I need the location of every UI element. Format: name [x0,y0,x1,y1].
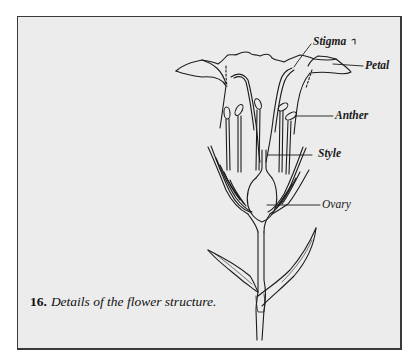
figure-caption: 16.Details of the flower structure. [30,294,217,310]
figure-caption-text: Details of the flower structure. [51,294,217,309]
label-style: Style [318,147,341,159]
ovary-shape [247,178,277,222]
left-leaf [208,250,258,292]
right-leaf [258,228,316,296]
figure-number: 16. [30,294,47,309]
corolla-outline [176,52,351,134]
stem [256,232,258,340]
label-anther: Anther [335,109,368,121]
label-petal: Petal [365,59,389,71]
label-ovary: Ovary [322,198,351,210]
label-stigma: Stigma [313,35,346,47]
